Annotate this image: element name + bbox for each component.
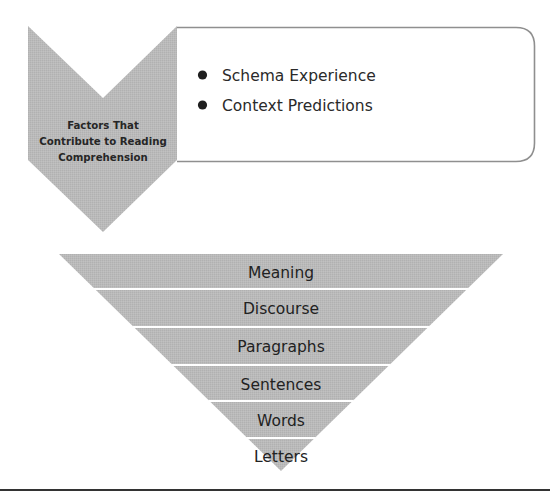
pyramid-level-paragraphs: Paragraphs [237,338,324,356]
factor-item-context-predictions: Context Predictions [222,97,373,115]
pyramid-level-sentences: Sentences [241,376,322,394]
chevron-label-line-1: Factors That [67,120,139,131]
bullet-icon [198,70,207,79]
factor-item-schema-experience: Schema Experience [222,67,376,85]
bullet-icon [198,100,207,109]
chevron-label-line-2: Contribute to Reading [39,136,166,147]
pyramid-level-words: Words [257,412,305,430]
inverted-pyramid: MeaningDiscourseParagraphsSentencesWords… [59,254,503,471]
reading-comprehension-diagram: Factors That Contribute to Reading Compr… [0,0,550,495]
pyramid-level-discourse: Discourse [243,300,319,318]
bottom-rule [0,489,550,491]
pyramid-level-letters: Letters [254,448,308,466]
factors-content-box [177,28,535,162]
pyramid-level-meaning: Meaning [248,264,314,282]
chevron-label-line-3: Comprehension [58,152,148,163]
